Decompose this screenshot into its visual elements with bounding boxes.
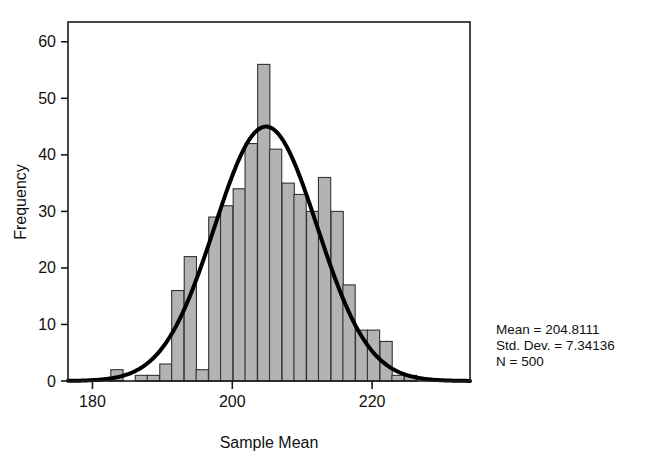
y-tick-label: 40: [38, 146, 56, 163]
stats-mean: Mean = 204.8111: [496, 322, 599, 337]
histogram-bar: [392, 375, 404, 381]
y-tick-label: 10: [38, 316, 56, 333]
histogram-bar: [270, 149, 282, 381]
histogram-bar: [135, 375, 147, 381]
y-tick-label: 0: [47, 373, 56, 390]
y-tick-label: 20: [38, 259, 56, 276]
x-axis-ticks: 180200220: [79, 381, 385, 410]
stats-annotation: Mean = 204.8111 Std. Dev. = 7.34136 N = …: [496, 322, 615, 369]
y-tick-label: 60: [38, 33, 56, 50]
histogram-bar: [307, 211, 319, 381]
histogram-bar: [318, 177, 330, 381]
x-tick-label: 200: [219, 393, 246, 410]
histogram-bar: [233, 189, 245, 381]
histogram-bar: [184, 257, 196, 381]
y-axis-title: Frequency: [12, 164, 29, 240]
stats-n: N = 500: [496, 354, 544, 369]
histogram-bar: [221, 206, 233, 381]
histogram-bar: [147, 375, 159, 381]
histogram-bar: [245, 144, 257, 381]
y-tick-label: 50: [38, 90, 56, 107]
y-tick-label: 30: [38, 203, 56, 220]
histogram-bar: [172, 291, 184, 381]
histogram-figure: 0102030405060 180200220 Frequency Sample…: [0, 0, 648, 461]
histogram-bar: [160, 364, 172, 381]
histogram-bar: [282, 183, 294, 381]
stats-std-dev: Std. Dev. = 7.34136: [496, 338, 615, 353]
y-axis-ticks: 0102030405060: [38, 33, 68, 389]
x-axis-title: Sample Mean: [220, 434, 319, 451]
histogram-bar: [258, 64, 270, 381]
chart-canvas: 0102030405060 180200220 Frequency Sample…: [0, 0, 648, 461]
x-tick-label: 220: [359, 393, 386, 410]
x-tick-label: 180: [79, 393, 106, 410]
histogram-bar: [196, 370, 208, 381]
histogram-bar: [294, 194, 306, 381]
